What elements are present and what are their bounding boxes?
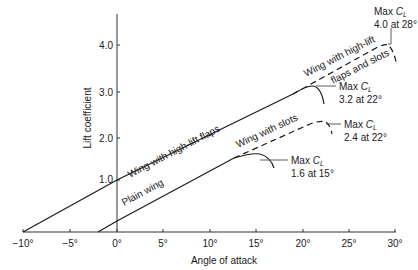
- annotation-plain-line1: Max CL: [291, 155, 324, 167]
- annotation-flaps: Max CL 3.2 at 22°: [339, 81, 382, 105]
- annotation-flaps-slots-line1: Max CL: [374, 6, 407, 18]
- y-tick-label: 2.0: [99, 133, 113, 144]
- series-plain-wing: [98, 154, 274, 232]
- y-axis-label: Lift coefficient: [82, 87, 93, 148]
- x-tick-label: −5°: [62, 238, 77, 249]
- x-tick-label: 0°: [112, 238, 122, 249]
- annotation-flaps-slots: Max CL 4.0 at 28°: [374, 6, 417, 30]
- annotation-slots-line1: Max CL: [344, 119, 377, 131]
- x-axis-label: Angle of attack: [191, 255, 258, 266]
- x-tick-label: 25°: [341, 238, 356, 249]
- lift-coefficient-chart: −10° −5° 0° 5° 10° 15° 20° 25° 30° Angle…: [0, 0, 418, 270]
- annotation-slots-line2: 2.4 at 22°: [344, 132, 387, 143]
- x-tick-label: 20°: [295, 238, 310, 249]
- annotation-flaps-slots-line2: 4.0 at 28°: [374, 19, 417, 30]
- y-tick-labels: 1.0 2.0 3.0 4.0: [99, 40, 113, 185]
- annotation-plain: Max CL 1.6 at 15°: [291, 155, 334, 179]
- series-high-lift-flaps: [23, 86, 324, 232]
- label-high-lift-flaps: Wing with high-lift flaps: [126, 123, 222, 180]
- label-plain-wing: Plain wing: [120, 177, 165, 208]
- y-tick-label: 3.0: [99, 87, 113, 98]
- annotation-plain-line2: 1.6 at 15°: [291, 168, 334, 179]
- x-tick-label: 5°: [158, 238, 168, 249]
- annotation-flaps-line2: 3.2 at 22°: [339, 94, 382, 105]
- annotation-flaps-line1: Max CL: [339, 81, 372, 93]
- x-tick-label: −10°: [13, 238, 34, 249]
- x-tick-labels: −10° −5° 0° 5° 10° 15° 20° 25° 30°: [13, 238, 403, 249]
- x-tick-label: 10°: [202, 238, 217, 249]
- y-tick-label: 4.0: [99, 40, 113, 51]
- x-tick-label: 30°: [387, 238, 402, 249]
- annotation-slots: Max CL 2.4 at 22°: [344, 119, 387, 143]
- x-tick-label: 15°: [248, 238, 263, 249]
